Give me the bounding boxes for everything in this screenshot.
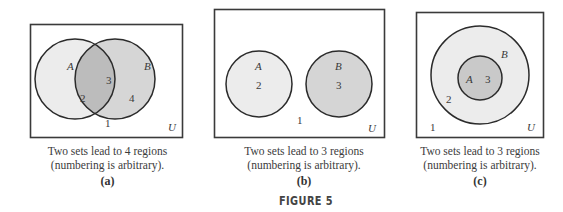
- caption-line: (numbering is arbitrary).: [30, 158, 185, 172]
- universe-label: U: [168, 121, 177, 133]
- universe-label: U: [368, 122, 377, 134]
- caption-c: Two sets lead to 3 regions (numbering is…: [405, 144, 555, 172]
- region-number: 4: [129, 92, 135, 104]
- region-number: 2: [80, 92, 86, 104]
- venn-panel-a: A B 3 2 4 1 U: [31, 25, 183, 138]
- set-a-label: A: [254, 60, 262, 72]
- set-a-label: A: [66, 60, 74, 72]
- region-number: 1: [430, 121, 436, 133]
- set-b-label: B: [144, 60, 151, 72]
- region-number: 2: [446, 93, 452, 105]
- region-number: 1: [105, 117, 111, 129]
- venn-panel-b: A B 2 3 1 U: [215, 10, 385, 138]
- sublabel-b: (b): [224, 174, 384, 189]
- caption-line: (numbering is arbitrary).: [405, 158, 555, 172]
- caption-a: Two sets lead to 4 regions (numbering is…: [30, 144, 185, 172]
- caption-b: Two sets lead to 3 regions (numbering is…: [224, 144, 384, 172]
- set-a-label: A: [465, 73, 473, 85]
- region-number: 1: [297, 114, 303, 126]
- region-number: 2: [256, 79, 262, 91]
- caption-line: Two sets lead to 3 regions: [405, 144, 555, 158]
- region-number: 3: [106, 74, 112, 86]
- caption-line: (numbering is arbitrary).: [224, 158, 384, 172]
- caption-line: Two sets lead to 3 regions: [224, 144, 384, 158]
- caption-line: Two sets lead to 4 regions: [30, 144, 185, 158]
- figure-title: FIGURE 5: [242, 194, 370, 208]
- venn-panel-c: B A 3 2 1 U: [417, 13, 544, 138]
- universe-label: U: [527, 121, 536, 133]
- set-a-circle: [458, 56, 502, 100]
- set-b-label: B: [501, 48, 508, 60]
- sublabel-c: (c): [405, 174, 555, 189]
- sublabel-a: (a): [30, 174, 185, 189]
- set-b-label: B: [335, 60, 342, 72]
- region-number: 3: [485, 73, 491, 85]
- region-number: 3: [336, 79, 342, 91]
